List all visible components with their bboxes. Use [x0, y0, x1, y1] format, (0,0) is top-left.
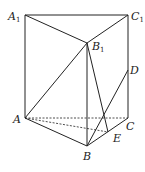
prism-diagram: A1 C1 B1 D A C E B [0, 0, 145, 172]
label-A1: A1 [7, 10, 20, 24]
label-C1: C1 [131, 10, 144, 24]
label-B: B [82, 150, 91, 163]
segment-B1E [87, 43, 108, 132]
label-E: E [112, 132, 121, 145]
edge-AB [25, 118, 87, 146]
segment-BD [87, 70, 128, 146]
edge-A1B1 [25, 15, 87, 43]
edge-B1C1 [87, 15, 128, 43]
label-A: A [12, 113, 21, 126]
segment-AB1 [25, 43, 87, 118]
label-C: C [126, 120, 135, 133]
label-D: D [129, 64, 139, 77]
label-B1: B1 [91, 40, 105, 54]
